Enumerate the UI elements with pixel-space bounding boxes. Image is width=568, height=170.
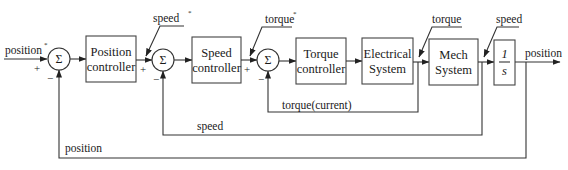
torque-controller-line2: controller — [297, 62, 346, 76]
position-reference-input: position * + — [4, 41, 48, 74]
integrator-block: 1 s — [494, 40, 515, 85]
sum2-plus-sign: + — [140, 63, 146, 75]
position-feedback-label: position — [65, 142, 102, 155]
integrator-numerator: 1 — [501, 47, 507, 61]
position-output-signal: position — [515, 47, 562, 62]
sum1-plus-sign: + — [34, 62, 40, 74]
control-block-diagram: position * + Σ − Position controller spe… — [0, 0, 568, 170]
speed-feedback-label: speed — [197, 120, 223, 133]
speed-controller-block: Speed controller — [192, 37, 242, 83]
speed-controller-line1: Speed — [201, 46, 232, 60]
torque-output-label: torque — [432, 13, 461, 26]
torque-ref-label: torque — [265, 13, 294, 26]
electrical-system-block: Electrical System — [362, 38, 413, 84]
sigma-icon: Σ — [160, 53, 167, 67]
electrical-system-line1: Electrical — [364, 47, 412, 61]
position-ref-star: * — [44, 41, 48, 49]
position-ref-label: position — [5, 44, 42, 57]
electrical-system-line2: System — [369, 62, 406, 76]
torque-ref-star: * — [293, 10, 297, 18]
speed-ref-label: speed — [153, 12, 179, 25]
position-output-label: position — [525, 47, 562, 60]
sigma-icon: Σ — [56, 52, 63, 66]
mech-system-line2: System — [435, 63, 472, 77]
torque-controller-line1: Torque — [303, 47, 339, 61]
speed-ref-star: * — [188, 9, 192, 17]
integrator-denominator: s — [502, 64, 507, 78]
position-controller-line1: Position — [91, 45, 133, 59]
torque-controller-block: Torque controller — [296, 38, 346, 84]
position-controller-block: Position controller — [86, 36, 136, 82]
sigma-icon: Σ — [265, 53, 272, 67]
speed-controller-line2: controller — [192, 61, 241, 75]
mech-system-block: Mech System — [429, 39, 478, 85]
mech-system-line1: Mech — [439, 48, 468, 62]
sum1-minus-sign: − — [47, 72, 53, 84]
sum3-minus-sign: − — [258, 73, 264, 85]
speed-output-label: speed — [496, 13, 522, 26]
position-controller-line2: controller — [87, 60, 136, 74]
torque-feedback-label: torque(current) — [282, 99, 352, 112]
sum3-plus-sign: + — [244, 63, 250, 75]
sum2-minus-sign: − — [153, 73, 159, 85]
